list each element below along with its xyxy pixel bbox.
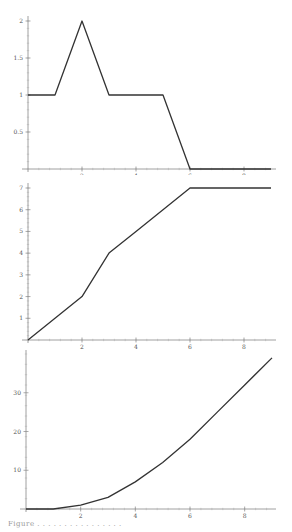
y-tick-label: 30 — [13, 389, 21, 396]
data-line — [28, 21, 271, 169]
plot-area: 24680.511.52 — [0, 0, 292, 175]
figure-caption: Figure . . . . . . . . . . . . . . . . — [8, 520, 122, 528]
y-tick-label: 2 — [19, 293, 23, 300]
x-tick-label: 2 — [80, 343, 84, 350]
x-tick-label: 4 — [133, 512, 137, 519]
y-tick-label: 1 — [19, 91, 23, 98]
x-tick-label: 4 — [134, 343, 138, 350]
x-tick-label: 8 — [242, 343, 246, 350]
chart-cumulative-sum: 2468102030 — [0, 350, 292, 520]
x-tick-label: 6 — [188, 512, 192, 519]
data-line — [28, 188, 271, 340]
y-tick-label: 3 — [19, 271, 23, 278]
chart-cumulative: 24681234567 — [0, 175, 292, 350]
chart-step-function: 24680.511.52 — [0, 0, 292, 175]
y-tick-label: 10 — [13, 466, 21, 473]
plot-area: 2468102030 — [0, 350, 292, 520]
y-tick-label: 1 — [19, 314, 23, 321]
y-tick-label: 20 — [13, 428, 21, 435]
x-tick-label: 8 — [243, 512, 247, 519]
y-tick-label: 1.5 — [13, 54, 23, 61]
data-line — [26, 358, 272, 509]
y-tick-label: 0.5 — [13, 128, 23, 135]
y-tick-label: 6 — [19, 206, 23, 213]
x-tick-label: 6 — [188, 343, 192, 350]
y-tick-label: 5 — [19, 227, 23, 234]
y-tick-label: 7 — [19, 184, 23, 191]
x-tick-label: 2 — [79, 512, 83, 519]
y-tick-label: 2 — [19, 17, 23, 24]
y-tick-label: 4 — [19, 249, 23, 256]
plot-area: 24681234567 — [0, 175, 292, 350]
